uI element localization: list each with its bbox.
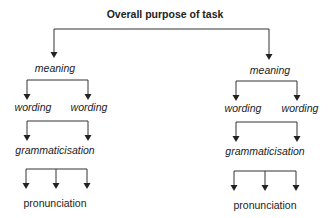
grammaticisation-label: grammaticisation xyxy=(225,145,305,157)
arrow-down-icon xyxy=(262,185,269,191)
arrow-down-icon xyxy=(233,136,240,142)
wording-label: wording xyxy=(15,101,52,113)
meaning-label: meaning xyxy=(250,64,290,76)
arrow-down-icon xyxy=(294,95,301,101)
arrow-down-icon xyxy=(294,136,301,142)
meaning-label: meaning xyxy=(35,62,75,74)
arrow-down-icon xyxy=(231,185,238,191)
arrow-down-icon xyxy=(84,183,91,189)
arrow-down-icon xyxy=(85,94,92,100)
diagram-title: Overall purpose of task xyxy=(107,8,224,20)
arrow-down-icon xyxy=(24,94,31,100)
arrow-down-icon xyxy=(23,183,30,189)
top-connector xyxy=(51,29,273,60)
wording-label: wording xyxy=(225,102,262,114)
arrow-down-icon xyxy=(85,135,92,141)
task-hierarchy-diagram: Overall purpose of task meaning wording … xyxy=(0,0,330,218)
right-branch: meaning wording wording grammaticisation… xyxy=(225,64,319,211)
wording-label: wording xyxy=(282,102,319,114)
arrow-down-icon xyxy=(293,185,300,191)
arrow-down-icon xyxy=(53,183,60,189)
arrow-down-icon xyxy=(51,52,58,58)
arrow-down-icon xyxy=(24,135,31,141)
left-branch: meaning wording wording grammaticisation… xyxy=(15,62,108,209)
pronunciation-label: pronunciation xyxy=(23,197,86,209)
wording-label: wording xyxy=(71,101,108,113)
grammaticisation-label: grammaticisation xyxy=(15,144,95,156)
arrow-down-icon xyxy=(233,95,240,101)
pronunciation-label: pronunciation xyxy=(233,199,296,211)
arrow-down-icon xyxy=(266,54,273,60)
